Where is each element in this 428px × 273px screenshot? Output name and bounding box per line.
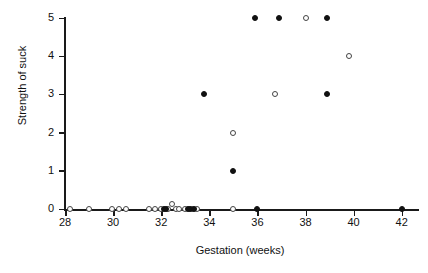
data-point-filled [252,15,258,21]
data-point-filled [276,15,282,21]
y-tick-label: 0 [38,203,54,214]
data-point-open [230,206,236,212]
data-point-filled [191,206,197,212]
x-tick-label: 34 [194,217,224,228]
data-point-open [109,206,115,212]
y-axis-line [64,17,66,210]
data-point-filled [201,91,207,97]
y-tick-label: 5 [38,12,54,23]
data-point-filled [230,168,236,174]
data-point-filled [254,206,260,212]
x-tick-label: 40 [339,217,369,228]
y-tick-label: 1 [38,165,54,176]
data-point-open [86,206,92,212]
data-point-filled [399,206,405,212]
data-point-filled [324,91,330,97]
x-tick-label: 36 [242,217,272,228]
y-tick-mark [59,170,64,172]
data-point-open [230,130,236,136]
data-point-open [123,206,129,212]
y-tick-label: 3 [38,88,54,99]
data-point-open [67,206,73,212]
y-axis-label: Strength of suck [17,16,28,156]
y-tick-mark [59,56,64,58]
x-tick-label: 42 [387,217,417,228]
x-tick-label: 38 [291,217,321,228]
data-point-open [346,53,352,59]
x-tick-label: 32 [146,217,176,228]
y-tick-label: 4 [38,50,54,61]
scatter-plot-figure: 012345 2830323436384042 Strength of suck… [0,0,428,273]
y-tick-mark [59,209,64,211]
y-tick-label: 2 [38,127,54,138]
x-tick-label: 30 [98,217,128,228]
x-tick-label: 28 [50,217,80,228]
y-tick-mark [59,94,64,96]
data-point-filled [163,206,169,212]
y-tick-mark [59,132,64,134]
data-point-open [272,91,278,97]
data-point-filled [324,15,330,21]
x-axis-label: Gestation (weeks) [150,245,330,256]
data-point-open [303,15,309,21]
data-point-open [116,206,122,212]
y-tick-mark [59,18,64,20]
